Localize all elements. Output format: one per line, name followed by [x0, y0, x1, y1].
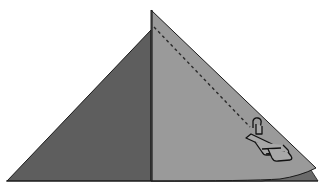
sewing-diagram [0, 0, 328, 190]
diagram-svg [0, 0, 328, 190]
